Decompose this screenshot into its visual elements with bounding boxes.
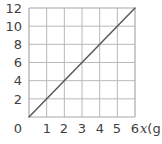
- y-tick-label-10: 10: [0, 20, 22, 33]
- x-tick-label-2: 2: [57, 122, 71, 135]
- line-chart-figure: 12 10 8 6 4 2 0 1 2 3 4 5 6 x(g): [0, 0, 162, 144]
- y-tick-label-0: 0: [0, 122, 22, 135]
- y-tick-label-2: 2: [0, 93, 22, 106]
- x-tick-label-1: 1: [40, 122, 54, 135]
- y-tick-label-4: 4: [0, 74, 22, 87]
- x-axis-title: x(g): [140, 122, 162, 135]
- x-tick-label-5: 5: [110, 122, 124, 135]
- y-tick-label-12: 12: [0, 2, 22, 15]
- y-tick-label-8: 8: [0, 38, 22, 51]
- y-tick-label-6: 6: [0, 56, 22, 69]
- x-tick-label-3: 3: [75, 122, 89, 135]
- x-tick-label-4: 4: [93, 122, 107, 135]
- x-axis-title-unit: (g): [147, 121, 162, 136]
